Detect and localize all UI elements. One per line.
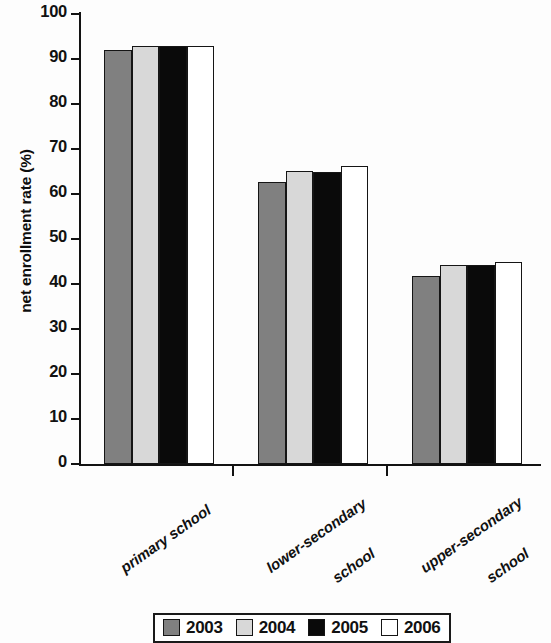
y-tick: 70 [71,148,79,150]
legend-swatch-2006 [381,619,398,636]
legend-label-2004: 2004 [259,618,296,638]
y-tick: 60 [71,193,79,195]
y-tick-label: 40 [49,272,67,291]
legend-swatch-2004 [236,619,253,636]
bar-upper-secondary-school-2004 [440,265,468,464]
category-label-lower-secondary-school: school [329,545,378,586]
legend-item-2004: 2004 [236,618,296,638]
bar-primary-school-2005 [159,46,187,465]
y-tick: 20 [71,373,79,375]
y-tick: 40 [71,283,79,285]
bar-upper-secondary-school-2006 [495,262,523,465]
y-tick: 0 [71,463,79,465]
x-tick [232,466,234,476]
y-tick: 30 [71,328,79,330]
category-label-upper-secondary-school: school [483,545,532,586]
y-tick: 100 [71,13,79,15]
bar-primary-school-2003 [104,50,132,464]
y-tick-label: 0 [58,452,67,471]
bar-lower-secondary-school-2004 [286,171,314,464]
bar-lower-secondary-school-2005 [313,172,341,464]
y-tick-label: 60 [49,182,67,201]
legend-item-2005: 2005 [308,618,368,638]
bar-lower-secondary-school-2006 [341,166,369,464]
y-tick-label: 10 [49,407,67,426]
legend-item-2003: 2003 [163,618,223,638]
legend-item-2006: 2006 [381,618,441,638]
bar-primary-school-2004 [132,46,160,465]
y-tick-label: 20 [49,362,67,381]
y-tick: 90 [71,58,79,60]
legend-label-2006: 2006 [404,618,441,638]
y-tick-label: 90 [49,47,67,66]
bar-primary-school-2006 [187,46,215,465]
x-tick [386,466,388,476]
y-tick-label: 80 [49,92,67,111]
y-tick-label: 70 [49,137,67,156]
legend-swatch-2005 [308,619,325,636]
y-tick-label: 100 [40,2,67,21]
x-axis-line [79,464,541,466]
y-axis-line [79,12,81,466]
y-axis-label: net enrollment rate (%) [17,96,35,366]
chart-legend: 2003200420052006 [153,613,451,643]
bar-chart-figure: net enrollment rate (%) 0102030405060708… [0,0,551,643]
legend-label-2005: 2005 [331,618,368,638]
y-tick: 50 [71,238,79,240]
legend-swatch-2003 [163,619,180,636]
bar-upper-secondary-school-2005 [467,265,495,464]
y-tick-label: 30 [49,317,67,336]
bar-upper-secondary-school-2003 [412,276,440,464]
y-tick: 80 [71,103,79,105]
plot-area: 0102030405060708090100 [79,14,541,464]
legend-label-2003: 2003 [186,618,223,638]
bar-lower-secondary-school-2003 [258,182,286,464]
y-tick-label: 50 [49,227,67,246]
category-label-primary-school: primary school [117,501,214,576]
y-tick: 10 [71,418,79,420]
